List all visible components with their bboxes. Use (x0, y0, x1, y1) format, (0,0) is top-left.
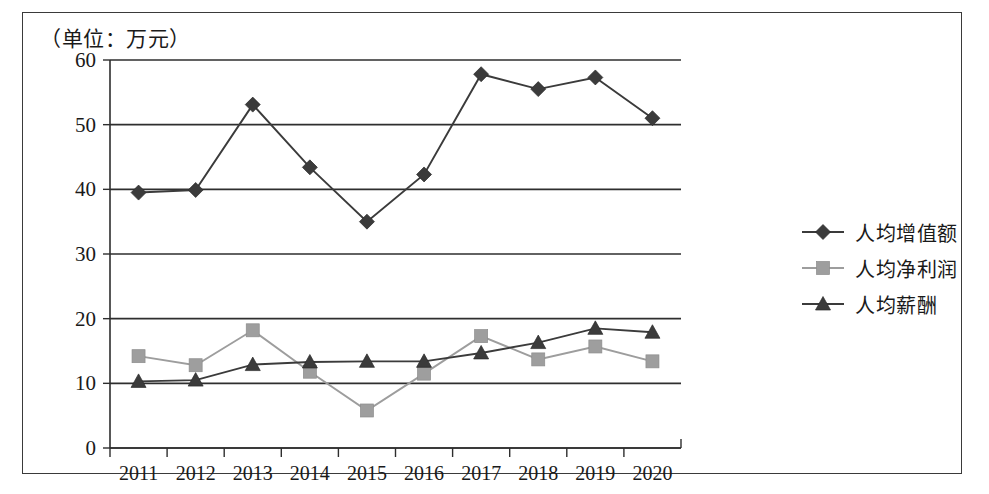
legend-item[interactable]: 人均增值额 (800, 214, 985, 250)
legend-item-label: 人均净利润 (855, 254, 958, 283)
y-axis-label: 0 (86, 436, 97, 460)
marker-square (360, 404, 373, 417)
x-axis-label: 2013 (233, 462, 273, 484)
marker-square (132, 350, 145, 363)
x-axis-label: 2018 (518, 462, 558, 484)
x-axis-label: 2017 (461, 462, 501, 484)
marker-diamond (474, 67, 489, 82)
marker-square (189, 359, 202, 372)
marker-square (475, 330, 488, 343)
marker-triangle (588, 321, 603, 335)
x-axis-label: 2011 (119, 462, 158, 484)
marker-diamond (131, 185, 146, 200)
marker-square (418, 367, 431, 380)
legend-item[interactable]: 人均薪酬 (800, 286, 985, 322)
y-axis-label: 60 (75, 48, 96, 72)
x-axis-label: 2016 (404, 462, 444, 484)
x-axis-label: 2019 (575, 462, 615, 484)
marker-diamond (188, 182, 203, 197)
y-axis-label: 40 (75, 177, 96, 201)
series-diamond (131, 67, 660, 229)
chart-legend: 人均增值额人均净利润人均薪酬 (800, 214, 985, 322)
x-axis-label: 2012 (176, 462, 216, 484)
y-axis-label: 20 (75, 307, 96, 331)
series-square (132, 324, 659, 417)
marker-square (646, 355, 659, 368)
marker-diamond (588, 70, 603, 85)
series-line (139, 328, 653, 381)
marker-square (589, 340, 602, 353)
y-axis-label: 50 (75, 113, 96, 137)
marker-square (246, 324, 259, 337)
series-line (139, 330, 653, 410)
series-triangle (131, 321, 660, 388)
y-axis-label: 10 (75, 371, 96, 395)
x-axis-label: 2015 (347, 462, 387, 484)
marker-square (817, 262, 830, 275)
marker-diamond (531, 82, 546, 97)
x-axis-label: 2020 (632, 462, 672, 484)
marker-diamond (816, 225, 831, 240)
legend-triangle-icon (800, 294, 846, 314)
legend-square-icon (800, 258, 846, 278)
y-axis-label: 30 (75, 242, 96, 266)
x-axis-label: 2014 (290, 462, 330, 484)
marker-diamond (645, 111, 660, 126)
marker-square (532, 353, 545, 366)
legend-item-label: 人均薪酬 (855, 290, 937, 319)
legend-item[interactable]: 人均净利润 (800, 250, 985, 286)
legend-item-label: 人均增值额 (855, 218, 958, 247)
series-line (139, 74, 653, 221)
legend-diamond-icon (800, 222, 846, 242)
